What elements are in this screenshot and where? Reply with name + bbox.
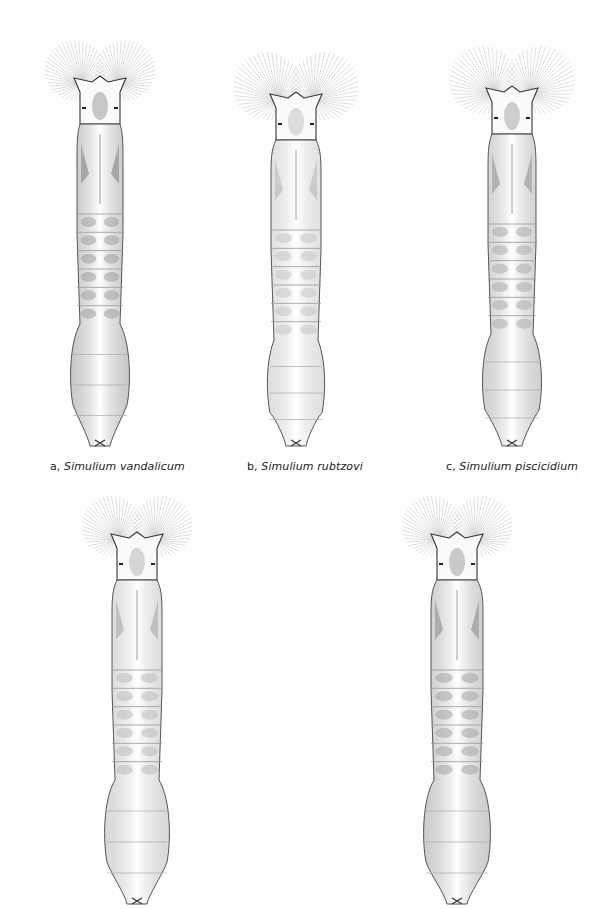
larva-illustration-b: [216, 50, 376, 456]
caption-a-label: a,: [50, 460, 60, 473]
caption-b-label: b,: [247, 460, 258, 473]
caption-b-species: rubtzovi: [317, 460, 363, 473]
larva-drawing: [20, 38, 180, 456]
caption-b: b, Simulium rubtzovi: [247, 460, 347, 473]
caption-a-genus: Simulium: [64, 460, 116, 473]
larva-illustration-d: [57, 494, 217, 909]
larva-drawing: [432, 44, 592, 456]
caption-a: a, Simulium vandalicum: [50, 460, 150, 473]
caption-b-genus: Simulium: [261, 460, 313, 473]
caption-c: c, Simulium piscicidium: [446, 460, 566, 473]
caption-c-species: piscicidium: [515, 460, 578, 473]
larva-illustration-c: [432, 44, 592, 456]
larva-illustration-a: [20, 38, 180, 456]
larva-illustration-e: [377, 494, 537, 909]
larva-drawing: [216, 50, 376, 456]
caption-a-species: vandalicum: [120, 460, 185, 473]
larva-drawing: [377, 494, 537, 909]
larva-drawing: [57, 494, 217, 909]
caption-c-label: c,: [446, 460, 456, 473]
caption-c-genus: Simulium: [459, 460, 511, 473]
